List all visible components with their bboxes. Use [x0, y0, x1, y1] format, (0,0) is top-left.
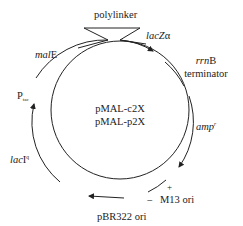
laci-name: lac: [10, 154, 23, 165]
polylinker-label: polylinker: [94, 10, 137, 21]
pbr322-ori-label: pBR322 ori: [97, 212, 146, 223]
laci-sup: q: [26, 154, 29, 160]
laci-label: lacIq: [10, 155, 29, 166]
male-suffix: E: [51, 49, 57, 60]
plasmid-name-p2x: pMAL-p2X: [76, 117, 164, 128]
amp-name: amp: [196, 121, 214, 132]
terminator-text: terminator: [178, 69, 234, 80]
m13-plus-sign: +: [167, 183, 172, 192]
amp-label: ampr: [196, 122, 216, 133]
ptac-label: Ptac: [17, 91, 29, 102]
male-label: malE: [35, 50, 57, 61]
rrnb-name: rrn: [196, 55, 209, 66]
male-name: mal: [35, 49, 51, 60]
polylinker-symbol: [78, 28, 146, 48]
amp-sup: r: [214, 121, 216, 127]
pbr322-arrow: [89, 196, 124, 198]
ptac-sub: tac: [23, 97, 29, 102]
lacz-suffix: α: [165, 30, 171, 41]
plasmid-name-block: pMAL-c2X pMAL-p2X: [76, 104, 164, 127]
rrnb-terminator-label: rrnB terminator: [178, 56, 234, 79]
amp-arrow: [179, 96, 193, 167]
m13-arc: [148, 180, 166, 192]
lacz-label: lacZα: [146, 31, 170, 42]
plasmid-name-c2x: pMAL-c2X: [76, 104, 164, 115]
rrnb-suffix: B: [209, 55, 216, 66]
m13-minus-sign: −: [147, 196, 153, 207]
lacz-name: lacZ: [146, 30, 165, 41]
laci-arc: [32, 104, 60, 182]
m13-ori-label: M13 ori: [160, 195, 194, 206]
